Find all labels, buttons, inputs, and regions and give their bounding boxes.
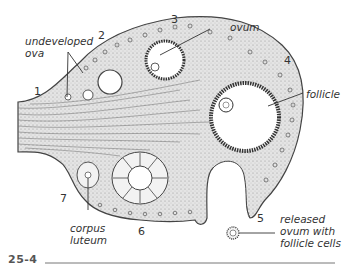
undeveloped-ovum-1 [65, 94, 71, 100]
stage-number-4: 4 [284, 55, 291, 67]
stage-number-3: 3 [171, 14, 178, 26]
follicle-ovum [219, 98, 233, 112]
stage-number-5: 5 [257, 213, 264, 225]
follicle-stage-3 [146, 41, 184, 79]
label-released-1: released [280, 213, 325, 225]
released-ovum [227, 227, 239, 239]
stage-number-6: 6 [138, 226, 145, 238]
stage-number-2: 2 [98, 30, 105, 42]
label-follicle: follicle [306, 88, 340, 100]
label-corpus-luteum-2: luteum [70, 234, 107, 246]
figure-number: 25-4 [8, 253, 38, 266]
stage-number-7: 7 [60, 193, 67, 205]
label-undeveloped-ova-2: ova [25, 47, 44, 59]
label-undeveloped-ova-1: undeveloped [25, 35, 93, 47]
developing-follicle [98, 70, 122, 94]
ovum-in-follicle [151, 63, 159, 71]
undeveloped-ovum-2 [83, 90, 93, 100]
label-released-2: ovum with [280, 225, 335, 237]
stage-number-1: 1 [34, 86, 41, 98]
label-ovum: ovum [230, 21, 260, 33]
corpus-luteum-large [112, 152, 168, 204]
label-released-3: follicle cells [280, 237, 341, 249]
label-corpus-luteum-1: corpus [70, 222, 105, 234]
follicle-stage-4 [211, 83, 279, 151]
